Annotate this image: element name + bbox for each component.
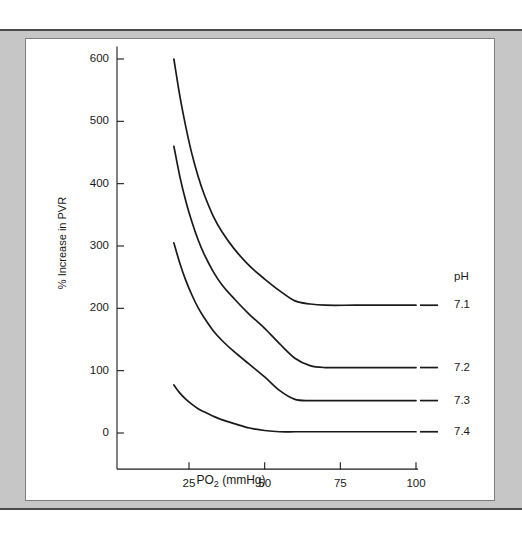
y-tick-label-5: 500 bbox=[67, 115, 109, 127]
chart-card: % Increase in PVR PO2 (mmHg) 01002003004… bbox=[25, 38, 495, 501]
x-tick-label-0: 25 bbox=[169, 478, 209, 490]
figure-page: % Increase in PVR PO2 (mmHg) 01002003004… bbox=[0, 0, 522, 537]
x-tick-label-1: 50 bbox=[245, 478, 285, 490]
axes-group bbox=[117, 47, 418, 470]
y-tick-label-4: 400 bbox=[67, 178, 109, 190]
legend-title: pH bbox=[454, 271, 494, 283]
tickmarks-group bbox=[117, 59, 416, 469]
curve-ph-7-2 bbox=[174, 146, 416, 367]
y-tick-label-3: 300 bbox=[67, 240, 109, 252]
y-tick-label-0: 0 bbox=[67, 427, 109, 439]
legend-label-7-1: 7.1 bbox=[454, 299, 494, 311]
legend-dashes-group bbox=[420, 305, 438, 432]
legend-label-7-4: 7.4 bbox=[454, 426, 494, 438]
x-tick-label-2: 75 bbox=[320, 478, 360, 490]
curve-ph-7-1 bbox=[174, 59, 416, 305]
legend-label-7-3: 7.3 bbox=[454, 395, 494, 407]
x-tick-label-3: 100 bbox=[396, 478, 436, 490]
chart-area: % Increase in PVR PO2 (mmHg) 01002003004… bbox=[26, 39, 496, 502]
curves-group bbox=[174, 59, 416, 432]
y-tick-label-6: 600 bbox=[67, 53, 109, 65]
y-tick-label-2: 200 bbox=[67, 302, 109, 314]
curve-ph-7-4 bbox=[174, 385, 416, 432]
y-tick-label-1: 100 bbox=[67, 365, 109, 377]
figure-rule-bottom bbox=[0, 508, 522, 510]
legend-label-7-2: 7.2 bbox=[454, 362, 494, 374]
